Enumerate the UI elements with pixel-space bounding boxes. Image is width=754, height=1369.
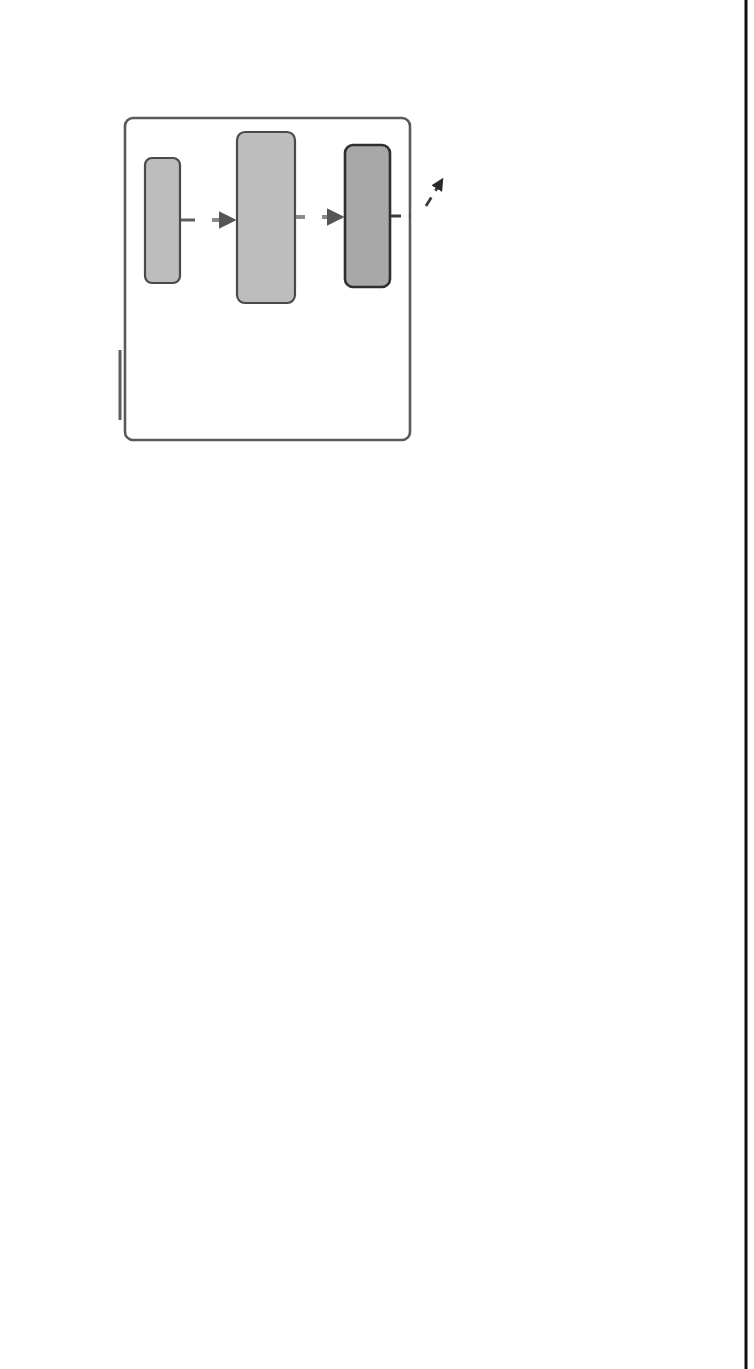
attention-framework-diagram (0, 0, 754, 1369)
decision-making-node (345, 145, 390, 287)
sensemaking-node (237, 132, 295, 303)
cognition-node (145, 158, 180, 283)
impacts-arrow (426, 180, 442, 206)
decision-making-system (125, 118, 442, 440)
